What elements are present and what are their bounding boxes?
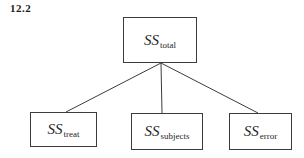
edge-total-error [161, 63, 258, 113]
figure-number-label: 12.2 [10, 2, 31, 14]
edge-total-treat [66, 63, 161, 112]
node-ss-total-subscript: total [160, 41, 176, 50]
node-ss-total: SS total [123, 17, 197, 63]
node-ss-error-subscript: error [260, 132, 278, 141]
node-ss-error-base: SS [244, 124, 259, 139]
node-ss-treat-base: SS [48, 122, 63, 137]
node-ss-error: SS error [229, 113, 292, 150]
node-ss-treat: SS treat [30, 112, 97, 147]
node-ss-treat-subscript: treat [64, 130, 80, 139]
node-ss-subjects: SS subjects [131, 113, 203, 150]
node-ss-subjects-base: SS [145, 124, 160, 139]
node-ss-subjects-subscript: subjects [161, 132, 190, 141]
partition-diagram: 12.2 SS total SS treat SS subjects SS er… [0, 0, 304, 158]
node-ss-total-base: SS [144, 33, 159, 48]
edge-total-subjects [161, 63, 162, 113]
